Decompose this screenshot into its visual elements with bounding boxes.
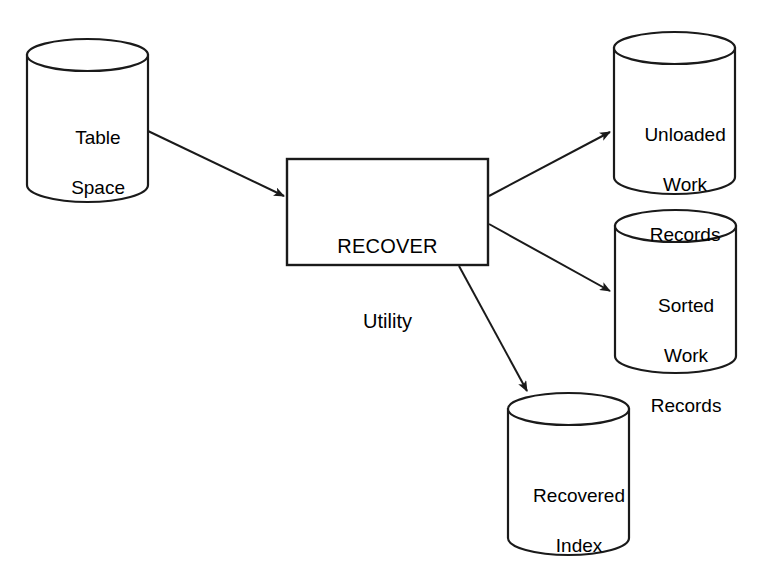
- label-recovered-index: Recovered Index: [503, 458, 634, 573]
- label-line: Table: [75, 127, 120, 148]
- label-line: Unloaded: [644, 124, 725, 145]
- label-line: Utility: [287, 309, 488, 334]
- label-line: Space: [71, 177, 125, 198]
- label-table-space: Table Space: [27, 100, 148, 225]
- label-line: Records: [650, 224, 721, 245]
- label-line: Records: [651, 395, 722, 416]
- label-line: Index: [556, 535, 602, 556]
- diagram-canvas: Table Space Unloaded Work Records Sorted…: [0, 0, 757, 573]
- arrow-recover-to-sorted-work-records: [489, 224, 610, 291]
- label-line: RECOVER: [287, 234, 488, 259]
- label-unloaded-work-records: Unloaded Work Records: [612, 97, 737, 272]
- label-line: Sorted: [658, 295, 714, 316]
- label-recover-utility: RECOVER Utility: [287, 184, 488, 384]
- label-line: Work: [663, 174, 707, 195]
- arrow-recover-to-unloaded-work-records: [489, 132, 610, 196]
- label-sorted-work-records: Sorted Work Records: [613, 268, 738, 443]
- cylinder-top: [27, 39, 148, 71]
- cylinder-top: [508, 393, 629, 425]
- arrow-table-space-to-recover: [148, 131, 284, 196]
- label-line: Work: [664, 345, 708, 366]
- label-line: Recovered: [533, 485, 625, 506]
- cylinder-top: [614, 32, 735, 64]
